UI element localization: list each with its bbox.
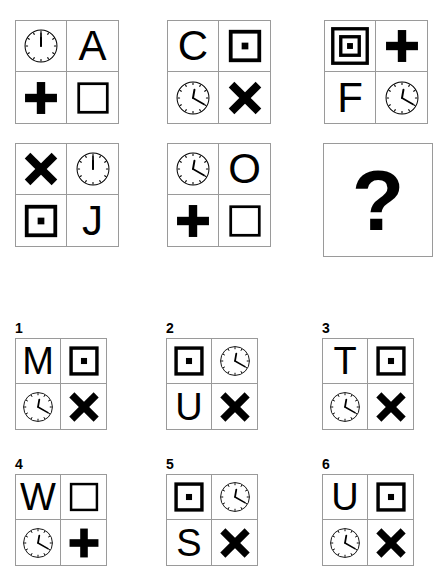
- matrix-cell-top-left: U: [323, 475, 368, 520]
- matrix-cell-top-left: [325, 21, 376, 72]
- clock-icon: [20, 25, 62, 67]
- matrix-cell-top-left: M: [16, 339, 61, 384]
- matrix-cell-top-right: [67, 144, 118, 195]
- matrix-cell-bottom-left: [323, 384, 368, 429]
- option-number-label: 3: [322, 321, 330, 335]
- matrix-cell-top-right: [61, 339, 106, 384]
- answer-option[interactable]: 6U: [322, 474, 414, 566]
- matrix-cell-bottom-left: [16, 384, 61, 429]
- square-dot-icon: [372, 478, 410, 516]
- option-number-label: 6: [322, 457, 330, 471]
- answer-option[interactable]: 2U: [166, 338, 258, 430]
- cross-x-icon: [372, 388, 410, 426]
- matrix-cell-top-right: [212, 339, 257, 384]
- letter-glyph: U: [175, 388, 202, 426]
- matrix-cell-top-right: [368, 339, 413, 384]
- option-panel[interactable]: U: [322, 474, 414, 566]
- matrix-cell-top-right: O: [219, 144, 270, 195]
- nested-square-dot-icon: [329, 25, 371, 67]
- matrix-cell-top-right: [61, 475, 106, 520]
- plus-icon: [172, 200, 214, 242]
- cross-x-icon: [216, 524, 254, 562]
- matrix-cell-bottom-left: [16, 195, 67, 246]
- letter-glyph: W: [20, 478, 56, 516]
- matrix-cell-top-right: [219, 21, 270, 72]
- clock-icon: [19, 524, 57, 562]
- option-panel[interactable]: W: [15, 474, 107, 566]
- matrix-cell-bottom-right: [376, 72, 427, 123]
- clock-icon: [216, 342, 254, 380]
- answer-option[interactable]: 4W: [15, 474, 107, 566]
- answer-option[interactable]: 5S: [166, 474, 258, 566]
- matrix-cell-bottom-right: [67, 72, 118, 123]
- question-panel: ?: [323, 143, 433, 257]
- square-icon: [224, 200, 266, 242]
- matrix-cell-bottom-right: [219, 195, 270, 246]
- matrix-cell-top-left: [168, 144, 219, 195]
- option-number-label: 2: [166, 321, 174, 335]
- letter-glyph: T: [333, 342, 356, 380]
- matrix-cell-top-left: [16, 21, 67, 72]
- matrix-panel: J: [15, 143, 119, 247]
- letter-glyph: F: [337, 77, 363, 119]
- matrix-area: ACFJO?: [0, 0, 440, 300]
- square-icon: [65, 478, 103, 516]
- clock-icon: [216, 478, 254, 516]
- matrix-cell-bottom-right: [219, 72, 270, 123]
- square-dot-icon: [20, 200, 62, 242]
- option-number-label: 1: [15, 321, 23, 335]
- letter-glyph: S: [176, 524, 201, 562]
- clock-icon: [19, 388, 57, 426]
- matrix-cell-top-right: A: [67, 21, 118, 72]
- matrix-cell-top-right: [376, 21, 427, 72]
- clock-icon: [172, 148, 214, 190]
- clock-icon: [381, 77, 423, 119]
- letter-glyph: J: [82, 200, 103, 242]
- option-panel[interactable]: U: [166, 338, 258, 430]
- matrix-cell-bottom-right: [212, 520, 257, 565]
- option-panel[interactable]: M: [15, 338, 107, 430]
- letter-glyph: U: [331, 478, 358, 516]
- matrix-cell-bottom-left: F: [325, 72, 376, 123]
- option-panel[interactable]: S: [166, 474, 258, 566]
- clock-icon: [72, 148, 114, 190]
- matrix-cell-top-right: [368, 475, 413, 520]
- option-number-label: 4: [15, 457, 23, 471]
- option-panel[interactable]: T: [322, 338, 414, 430]
- answer-option[interactable]: 1M: [15, 338, 107, 430]
- matrix-cell-top-right: [212, 475, 257, 520]
- cross-x-icon: [65, 388, 103, 426]
- matrix-panel: F: [324, 20, 428, 124]
- square-dot-icon: [224, 25, 266, 67]
- square-dot-icon: [170, 478, 208, 516]
- cross-x-icon: [20, 148, 62, 190]
- matrix-cell-top-left: W: [16, 475, 61, 520]
- square-icon: [72, 77, 114, 119]
- plus-icon: [381, 25, 423, 67]
- matrix-cell-top-left: [16, 144, 67, 195]
- square-dot-icon: [65, 342, 103, 380]
- cross-x-icon: [216, 388, 254, 426]
- matrix-cell-bottom-left: [323, 520, 368, 565]
- square-dot-icon: [372, 342, 410, 380]
- matrix-panel: C: [167, 20, 271, 124]
- letter-glyph: M: [22, 342, 54, 380]
- matrix-cell-bottom-left: [16, 520, 61, 565]
- cross-x-icon: [372, 524, 410, 562]
- letter-glyph: A: [78, 25, 106, 67]
- answer-option[interactable]: 3T: [322, 338, 414, 430]
- plus-icon: [20, 77, 62, 119]
- matrix-cell-bottom-right: [368, 520, 413, 565]
- matrix-cell-bottom-right: [61, 520, 106, 565]
- clock-icon: [172, 77, 214, 119]
- matrix-cell-bottom-right: [368, 384, 413, 429]
- clock-icon: [326, 524, 364, 562]
- clock-icon: [326, 388, 364, 426]
- matrix-cell-top-left: [167, 339, 212, 384]
- matrix-cell-bottom-left: U: [167, 384, 212, 429]
- matrix-cell-bottom-left: S: [167, 520, 212, 565]
- matrix-cell-top-left: [167, 475, 212, 520]
- matrix-cell-bottom-left: [16, 72, 67, 123]
- answer-options-area: 1M2U3T4W5S6U: [0, 300, 440, 567]
- plus-icon: [65, 524, 103, 562]
